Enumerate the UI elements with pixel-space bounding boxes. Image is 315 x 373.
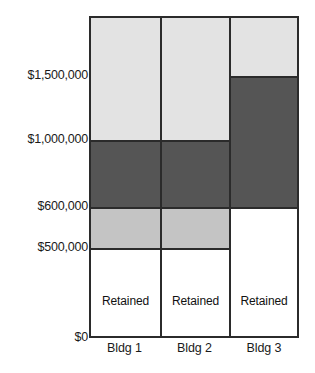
bar-bldg-2[interactable]: Retained [162,18,231,336]
bar-3-retained-label: Retained [231,294,297,308]
y-axis-tick-0: $0 [74,331,88,344]
bar-3-segment-retained: Retained [231,207,297,336]
bar-2-segment-600k-1m [162,140,229,207]
bar-2-segment-500k-600k [162,207,229,248]
bar-3-segment-600k-15m [231,76,297,207]
bar-1-segment-600k-1m [91,140,160,207]
y-axis-tick-600000: $600,000 [37,200,88,213]
x-axis-label-bldg-2: Bldg 2 [160,342,229,355]
plot-area: Retained Retained Retained [89,16,299,338]
stacked-bar-chart: $1,500,000 $1,000,000 $600,000 $500,000 … [0,0,315,373]
bar-2-retained-label: Retained [162,294,229,308]
y-axis-tick-1500000: $1,500,000 [27,69,88,82]
x-axis-label-bldg-3: Bldg 3 [229,342,299,355]
bar-1-segment-retained: Retained [91,248,160,336]
bar-1-segment-top-band [91,18,160,140]
bar-1-segment-500k-600k [91,207,160,248]
bar-bldg-1[interactable]: Retained [91,18,162,336]
bar-bldg-3[interactable]: Retained [231,18,297,336]
bar-2-segment-retained: Retained [162,248,229,336]
y-axis-tick-1000000: $1,000,000 [27,133,88,146]
bar-2-segment-top-band [162,18,229,140]
bar-1-retained-label: Retained [91,294,160,308]
bar-3-segment-top-band [231,18,297,76]
x-axis-label-bldg-1: Bldg 1 [89,342,160,355]
y-axis-tick-500000: $500,000 [37,241,88,254]
